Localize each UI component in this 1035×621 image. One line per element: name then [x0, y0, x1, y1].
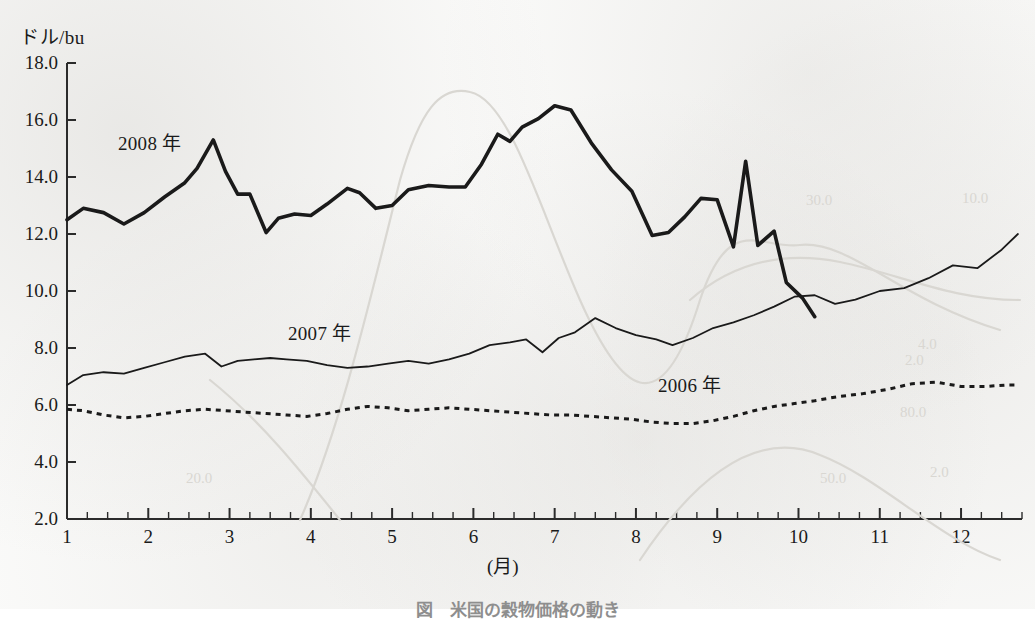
y-axis-ticks	[67, 63, 76, 519]
series-line-2007	[67, 234, 1018, 385]
series-line-2006	[67, 382, 1018, 423]
x-axis-ticks	[67, 508, 1022, 519]
series-line-2008	[67, 106, 815, 317]
bleed-through-curves	[210, 91, 1020, 560]
figure-caption: 図 米国の穀物価格の動き	[0, 596, 1035, 621]
